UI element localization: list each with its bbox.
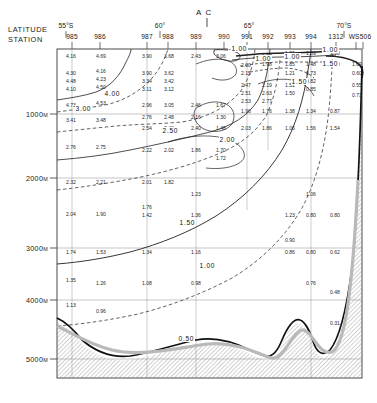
- value-WS506-1: 0.60: [352, 70, 362, 76]
- value-985-1: 4.30: [66, 70, 76, 76]
- contour-front-d: [250, 68, 314, 78]
- value-994-7: 1.06: [306, 191, 316, 197]
- value-990-1: 1.67: [216, 102, 226, 108]
- value-1312-2: 0.87: [330, 108, 340, 114]
- value-986-8: 1.90: [96, 211, 106, 217]
- value-985-2: 4.48: [66, 78, 76, 84]
- latitude-ticks: [66, 31, 344, 38]
- value-990-4: 1.70: [216, 147, 226, 153]
- value-987-6: 2.54: [142, 125, 152, 131]
- contour-label-4: 1.50: [179, 219, 196, 226]
- depth-tick-marks: [50, 114, 57, 359]
- value-986-1: 4.16: [96, 68, 106, 74]
- contour-label-3: 2.00: [219, 136, 236, 143]
- value-986-2: 4.23: [96, 76, 106, 82]
- value-1312-7: 0.31: [330, 320, 340, 326]
- contour-label-8: 1.00: [322, 46, 339, 53]
- value-987-9: 1.76: [142, 204, 152, 210]
- value-994-10: 0.76: [306, 280, 316, 286]
- value-987-8: 2.01: [142, 179, 152, 185]
- value-994-2: 0.73: [306, 70, 316, 76]
- value-994-9: 0.80: [306, 249, 316, 255]
- value-990-2: 1.30: [216, 114, 226, 120]
- value-986-11: 0.96: [96, 308, 106, 314]
- value-993-1: 1.85: [285, 61, 295, 67]
- value-986-0: 4.69: [96, 53, 106, 59]
- value-985-5: 3.41: [66, 117, 76, 123]
- value-989-6: 1.36: [191, 212, 201, 218]
- value-993-9: 0.86: [285, 249, 295, 255]
- value-1312-5: 0.62: [330, 249, 340, 255]
- value-985-0: 4.16: [66, 53, 76, 59]
- value-988-0: 3.68: [164, 53, 174, 59]
- value-988-5: 2.48: [164, 114, 174, 120]
- value-985-7: 2.32: [66, 179, 76, 185]
- contour-label-6: 0.50: [178, 335, 195, 342]
- value-994-0: 1.69: [306, 50, 316, 56]
- station-ticks: [72, 42, 363, 49]
- value-992-4: 2.77: [262, 98, 272, 104]
- value-985-8: 2.04: [66, 211, 76, 217]
- contour-label-10: 1.50: [322, 60, 339, 67]
- value-993-5: 1.38: [285, 108, 295, 114]
- contour-label-11: 1.50: [291, 78, 308, 85]
- value-987-11: 1.34: [142, 249, 152, 255]
- value-994-8: 0.80: [306, 212, 316, 218]
- value-WS506-3: 0.73: [352, 92, 362, 98]
- value-WS506-0: 1.09: [352, 61, 362, 67]
- section-plot-svg: [0, 0, 377, 403]
- value-987-4: 2.96: [142, 102, 152, 108]
- oceanographic-section-figure: LATITUDE STATION A C 55°S60°65°70°S 9859…: [0, 0, 377, 403]
- value-992-2: 2.19: [262, 82, 272, 88]
- value-986-9: 1.53: [96, 249, 106, 255]
- value-WS506-2: 0.55: [352, 82, 362, 88]
- value-991-4: 2.53: [241, 98, 251, 104]
- contour-label-9: 1.00: [284, 53, 301, 60]
- value-985-11: 1.13: [66, 302, 76, 308]
- value-985-10: 1.35: [66, 277, 76, 283]
- value-988-7: 2.02: [164, 147, 174, 153]
- value-993-6: 1.06: [285, 125, 295, 131]
- value-986-7: 2.21: [96, 179, 106, 185]
- value-988-1: 3.62: [164, 70, 174, 76]
- value-1312-4: 0.80: [330, 212, 340, 218]
- value-991-2: 2.47: [241, 82, 251, 88]
- value-987-7: 2.22: [142, 147, 152, 153]
- value-987-3: 3.11: [142, 86, 152, 92]
- value-990-3: 1.48: [216, 125, 226, 131]
- value-988-4: 3.05: [164, 102, 174, 108]
- contour-label-0: 4.00: [104, 90, 121, 97]
- contour-aasw-tongue: [196, 59, 237, 80]
- value-991-1: 2.15: [241, 70, 251, 76]
- value-993-2: 1.21: [285, 70, 295, 76]
- value-986-6: 2.75: [96, 144, 106, 150]
- value-994-6: 1.56: [306, 125, 316, 131]
- value-994-1: 1.48: [306, 61, 316, 67]
- contour-label-2: 2.50: [162, 127, 179, 134]
- value-987-5: 2.76: [142, 114, 152, 120]
- value-1312-6: 0.48: [330, 289, 340, 295]
- value-994-4: 0.85: [306, 86, 316, 92]
- value-993-8: 0.90: [285, 237, 295, 243]
- value-989-2: 2.16: [191, 114, 201, 120]
- value-986-5: 3.48: [96, 117, 106, 123]
- value-986-4: 4.53: [96, 100, 106, 106]
- value-985-9: 1.74: [66, 249, 76, 255]
- depth-gridlines: [57, 114, 362, 359]
- value-992-6: 1.86: [262, 125, 272, 131]
- value-990-0: 3.06: [216, 53, 226, 59]
- value-987-2: 3.34: [142, 78, 152, 84]
- value-987-0: 3.90: [142, 53, 152, 59]
- seafloor-shadow: [57, 180, 358, 358]
- value-991-5: 1.96: [241, 108, 251, 114]
- value-987-10: 1.42: [142, 212, 152, 218]
- value-992-5: 1.76: [262, 108, 272, 114]
- value-988-2: 3.42: [164, 78, 174, 84]
- value-990-5: 1.72: [216, 155, 226, 161]
- value-991-3: 2.51: [241, 90, 251, 96]
- value-985-6: 2.76: [66, 144, 76, 150]
- value-985-3: 4.10: [66, 86, 76, 92]
- value-991-0: 2.00: [241, 62, 251, 68]
- value-987-1: 3.90: [142, 70, 152, 76]
- value-988-8: 1.82: [164, 179, 174, 185]
